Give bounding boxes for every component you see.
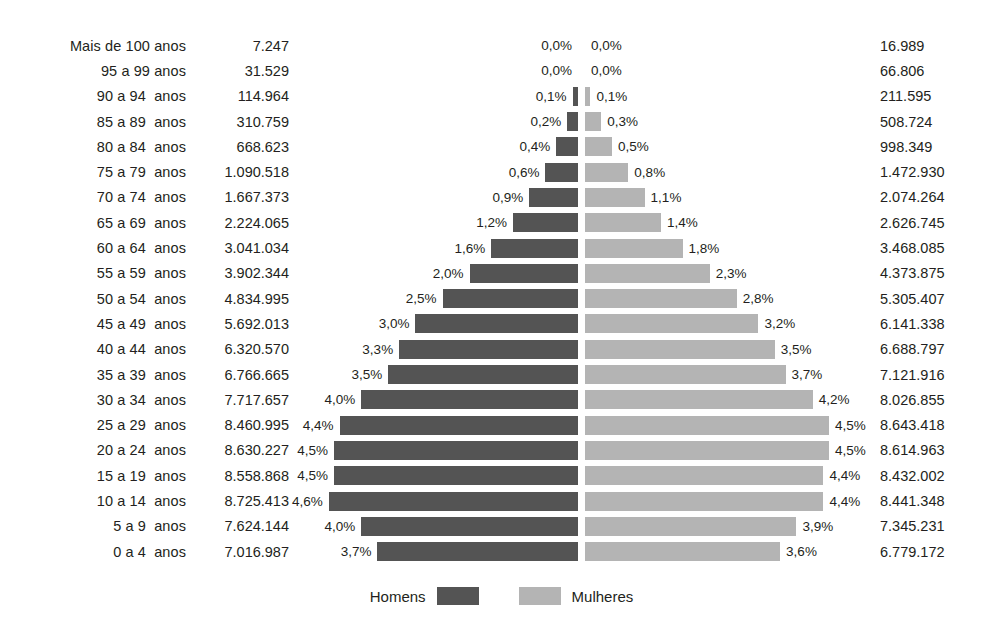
male-bar-group: 1,2%: [0, 210, 578, 235]
male-bar-group: 3,0%: [0, 311, 578, 336]
female-percent-label: 1,8%: [689, 241, 720, 256]
female-count-value: 3.468.085: [880, 240, 993, 256]
table-row: Mais de 100 anos7.2470,0%0,0%16.989: [0, 33, 1003, 58]
legend-swatch-mulheres: [519, 587, 561, 605]
male-percent-label: 4,6%: [292, 494, 323, 509]
legend-label-mulheres: Mulheres: [572, 588, 634, 605]
female-bar: [585, 87, 590, 106]
female-percent-label: 0,5%: [618, 139, 649, 154]
table-row: 10 a 14 anos8.725.4134,6%4,4%8.441.348: [0, 488, 1003, 513]
female-bar: [585, 340, 775, 359]
female-percent-label: 4,4%: [829, 494, 860, 509]
female-bar: [585, 163, 628, 182]
male-percent-label: 4,5%: [297, 443, 328, 458]
male-percent-label: 0,0%: [541, 63, 572, 78]
female-count-value: 7.121.916: [880, 367, 993, 383]
male-percent-label: 0,6%: [509, 165, 540, 180]
male-percent-label: 4,0%: [324, 519, 355, 534]
male-bar: [361, 517, 578, 536]
male-bar-group: 4,0%: [0, 387, 578, 412]
female-count-value: 8.432.002: [880, 468, 993, 484]
female-bar: [585, 466, 823, 485]
female-count-value: 8.614.963: [880, 442, 993, 458]
male-bar: [545, 163, 578, 182]
male-bar-group: 0,2%: [0, 109, 578, 134]
male-bar-group: 0,6%: [0, 160, 578, 185]
chart-legend: Homens Mulheres: [0, 578, 1003, 614]
female-percent-label: 1,4%: [667, 215, 698, 230]
female-bar: [585, 188, 645, 207]
male-percent-label: 4,0%: [324, 392, 355, 407]
male-bar-group: 0,0%: [0, 33, 578, 58]
female-count-value: 66.806: [880, 63, 993, 79]
female-percent-label: 2,8%: [743, 291, 774, 306]
male-percent-label: 3,5%: [352, 367, 383, 382]
male-bar: [567, 112, 578, 131]
table-row: 15 a 19 anos8.558.8684,5%4,4%8.432.002: [0, 463, 1003, 488]
female-percent-label: 3,7%: [792, 367, 823, 382]
female-percent-label: 0,3%: [607, 114, 638, 129]
male-bar-group: 0,4%: [0, 134, 578, 159]
male-bar-group: 2,5%: [0, 286, 578, 311]
female-count-value: 4.373.875: [880, 265, 993, 281]
male-percent-label: 4,5%: [297, 468, 328, 483]
female-count-value: 8.026.855: [880, 392, 993, 408]
male-bar: [334, 466, 578, 485]
female-count-value: 6.141.338: [880, 316, 993, 332]
population-pyramid-chart: Mais de 100 anos7.2470,0%0,0%16.98995 a …: [0, 0, 1003, 627]
female-count-value: 998.349: [880, 139, 993, 155]
female-count-value: 1.472.930: [880, 164, 993, 180]
male-bar-group: 2,0%: [0, 261, 578, 286]
female-percent-label: 3,2%: [764, 316, 795, 331]
male-bar-group: 0,1%: [0, 84, 578, 109]
male-bar-group: 4,5%: [0, 438, 578, 463]
female-percent-label: 3,6%: [786, 544, 817, 559]
male-bar: [443, 289, 579, 308]
table-row: 65 a 69 anos2.224.0651,2%1,4%2.626.745: [0, 210, 1003, 235]
female-percent-label: 1,1%: [651, 190, 682, 205]
table-row: 60 a 64 anos3.041.0341,6%1,8%3.468.085: [0, 235, 1003, 260]
male-bar: [340, 416, 578, 435]
table-row: 85 a 89 anos310.7590,2%0,3%508.724: [0, 109, 1003, 134]
female-count-value: 6.779.172: [880, 544, 993, 560]
female-count-value: 8.643.418: [880, 417, 993, 433]
male-bar-group: 3,3%: [0, 337, 578, 362]
female-count-value: 16.989: [880, 38, 993, 54]
female-percent-label: 4,4%: [829, 468, 860, 483]
male-percent-label: 1,6%: [455, 241, 486, 256]
male-percent-label: 3,0%: [379, 316, 410, 331]
male-bar: [388, 365, 578, 384]
male-percent-label: 3,7%: [341, 544, 372, 559]
male-percent-label: 0,0%: [541, 38, 572, 53]
female-bar: [585, 239, 683, 258]
female-bar: [585, 416, 829, 435]
legend-label-homens: Homens: [370, 588, 426, 605]
female-count-value: 211.595: [880, 88, 993, 104]
female-count-value: 6.688.797: [880, 341, 993, 357]
female-count-value: 2.626.745: [880, 215, 993, 231]
male-percent-label: 2,0%: [433, 266, 464, 281]
male-bar: [377, 542, 578, 561]
table-row: 50 a 54 anos4.834.9952,5%2,8%5.305.407: [0, 286, 1003, 311]
table-row: 80 a 84 anos668.6230,4%0,5%998.349: [0, 134, 1003, 159]
male-bar: [361, 390, 578, 409]
female-percent-label: 2,3%: [716, 266, 747, 281]
female-bar: [585, 264, 710, 283]
female-bar: [585, 289, 737, 308]
male-bar: [334, 441, 578, 460]
female-bar: [585, 112, 601, 131]
female-bar: [585, 441, 829, 460]
male-bar-group: 4,4%: [0, 413, 578, 438]
male-bar-group: 0,9%: [0, 185, 578, 210]
male-bar: [329, 492, 578, 511]
male-bar-group: 4,6%: [0, 488, 578, 513]
female-bar: [585, 492, 823, 511]
male-bar: [573, 87, 578, 106]
female-bar: [585, 390, 813, 409]
female-bar: [585, 314, 758, 333]
male-percent-label: 0,9%: [492, 190, 523, 205]
female-percent-label: 4,5%: [835, 418, 866, 433]
female-count-value: 508.724: [880, 114, 993, 130]
female-bar: [585, 137, 612, 156]
female-count-value: 8.441.348: [880, 493, 993, 509]
